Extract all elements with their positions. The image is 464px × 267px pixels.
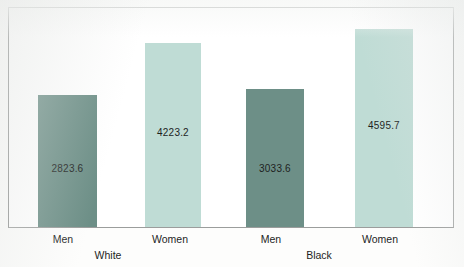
bar-black-men: 3033.6 — [246, 89, 304, 227]
tick-label-white-men: Men — [8, 233, 118, 245]
group-label-black: Black — [264, 249, 374, 261]
bar-value-black-women: 4595.7 — [355, 120, 413, 131]
bar-value-white-women: 4223.2 — [145, 127, 201, 138]
group-label-white: White — [53, 249, 163, 261]
tick-label-black-women: Women — [325, 233, 435, 245]
bar-value-black-men: 3033.6 — [246, 163, 304, 174]
plot-area: 2823.6 4223.2 3033.6 4595.7 — [8, 7, 454, 228]
tick-label-black-men: Men — [216, 233, 326, 245]
bar-white-men: 2823.6 — [38, 95, 97, 227]
bar-white-women: 4223.2 — [145, 43, 201, 227]
bar-value-white-men: 2823.6 — [38, 163, 97, 174]
bar-black-women: 4595.7 — [355, 29, 413, 227]
bar-chart: 2823.6 4223.2 3033.6 4595.7 Men Women Me… — [0, 0, 464, 267]
tick-label-white-women: Women — [115, 233, 225, 245]
